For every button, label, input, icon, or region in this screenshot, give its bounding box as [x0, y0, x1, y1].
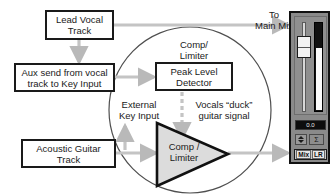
box-acoustic-line1: Acoustic Guitar	[36, 143, 100, 154]
box-lead-vocal-track[interactable]: Lead Vocal Track	[45, 10, 114, 40]
box-acoustic-line2: Track	[36, 154, 100, 165]
box-aux-send-line1: Aux send from vocal	[21, 67, 107, 78]
fader-value-readout: 0.0	[295, 120, 326, 130]
label-comp-limiter-triangle: Comp / Limiter	[158, 141, 210, 163]
label-vocals-duck-guitar-signal: Vocals “duck” guitar signal	[186, 99, 262, 121]
fader-handle[interactable]	[297, 36, 311, 58]
box-acoustic-guitar-track[interactable]: Acoustic Guitar Track	[21, 139, 116, 168]
box-aux-send[interactable]: Aux send from vocal track to Key Input	[14, 63, 115, 92]
diagram-canvas: Lead Vocal Track Aux send from vocal tra…	[0, 0, 335, 194]
box-aux-send-line2: track to Key Input	[21, 78, 107, 89]
label-external-key-input: External Key Input	[108, 99, 170, 121]
box-peak-level-line1: Peak Level	[170, 66, 217, 77]
level-meter-fill	[316, 48, 322, 110]
box-peak-level-line2: Detector	[170, 77, 217, 88]
pan-stepper[interactable]	[295, 134, 307, 145]
mixer-channel-strip[interactable]: 0.0 Σ Mix LR	[289, 11, 330, 164]
bus-assign-lr[interactable]: LR	[312, 150, 325, 159]
level-meter	[314, 22, 323, 112]
box-peak-level-detector[interactable]: Peak Level Detector	[155, 62, 233, 91]
bus-assign-mix[interactable]: Mix	[296, 150, 311, 159]
pan-knob[interactable]: Σ	[309, 134, 324, 145]
bus-assign-row[interactable]: Mix LR	[294, 149, 327, 160]
box-lead-vocal-line2: Track	[56, 25, 103, 36]
fader-area	[294, 16, 327, 115]
box-lead-vocal-line1: Lead Vocal	[56, 14, 103, 25]
pan-row: Σ	[295, 134, 326, 145]
label-comp-limiter-top: Comp/ Limiter	[158, 39, 230, 61]
